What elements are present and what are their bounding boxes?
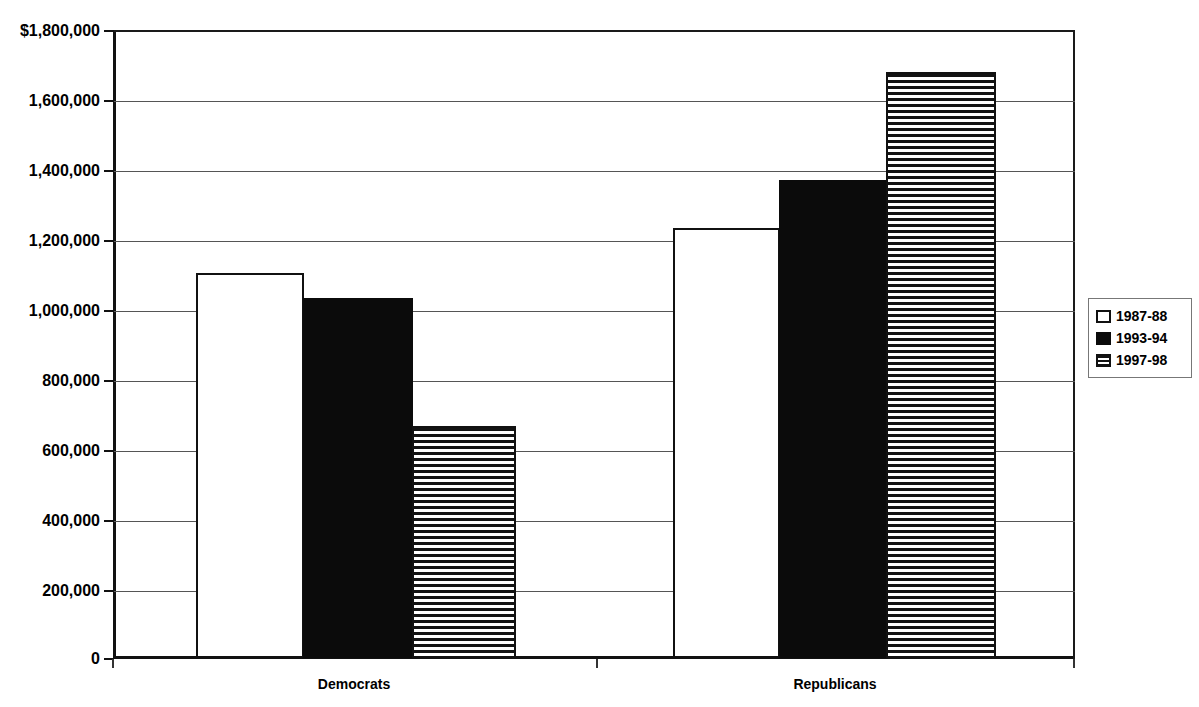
xtick-mark-right (1073, 659, 1075, 668)
legend-item-1993-94: 1993-94 (1096, 327, 1185, 349)
legend-item-1997-98: 1997-98 (1096, 349, 1185, 371)
bar-democrats-1993-94 (303, 298, 413, 658)
filled-square-icon (1096, 332, 1111, 345)
legend-item-1987-88: 1987-88 (1096, 305, 1185, 327)
bar-republicans-1987-88 (673, 228, 780, 658)
xtick-label-republicans: Republicans (735, 676, 935, 692)
bar-republicans-1993-94 (779, 180, 889, 658)
legend-label-1993-94: 1993-94 (1116, 331, 1167, 345)
xtick-mark-middle (596, 659, 598, 668)
open-square-icon (1096, 310, 1111, 323)
legend-label-1987-88: 1987-88 (1116, 309, 1167, 323)
bars-layer (0, 0, 1199, 658)
bar-republicans-1997-98 (886, 72, 996, 658)
legend: 1987-88 1993-94 1997-98 (1088, 298, 1192, 378)
bar-democrats-1997-98 (412, 426, 516, 658)
bar-chart: $1,800,000 1,600,000 1,400,000 1,200,000… (0, 0, 1199, 707)
striped-square-icon (1096, 354, 1111, 367)
xtick-label-democrats: Democrats (254, 676, 454, 692)
xtick-mark-left (112, 659, 114, 668)
legend-label-1997-98: 1997-98 (1116, 353, 1167, 367)
bar-democrats-1987-88 (196, 273, 304, 658)
